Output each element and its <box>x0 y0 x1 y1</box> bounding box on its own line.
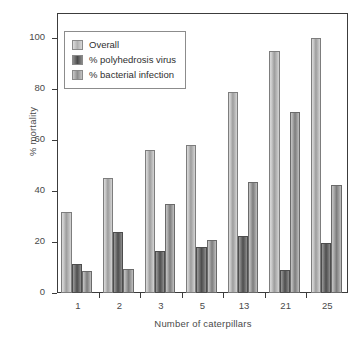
bar <box>238 236 248 293</box>
bar <box>165 204 175 293</box>
bar <box>269 51 279 293</box>
bar <box>280 270 290 293</box>
bar <box>186 145 196 293</box>
legend-swatch-icon-polyhedrosis-virus <box>72 55 83 65</box>
bar <box>196 247 206 293</box>
bar <box>228 92 238 293</box>
legend-swatch-icon-overall <box>72 40 83 50</box>
bar <box>123 269 133 293</box>
bar <box>113 232 123 293</box>
legend-item-bacterial-infection: % bacterial infection <box>72 67 176 82</box>
legend-item-polyhedrosis-virus: % polyhedrosis virus <box>72 52 176 67</box>
x-axis-label: Number of caterpillars <box>57 318 349 329</box>
bar <box>61 212 71 293</box>
bar <box>248 182 258 293</box>
mortality-bar-chart: % mortality 020406080100 1235132125 Over… <box>0 0 360 339</box>
bar <box>145 150 155 293</box>
bar <box>155 251 165 293</box>
bar <box>82 271 92 293</box>
legend-swatch-icon-bacterial-infection <box>72 70 83 80</box>
bar <box>321 243 331 293</box>
legend-label-overall: Overall <box>89 39 119 50</box>
legend-label-polyhedrosis-virus: % polyhedrosis virus <box>89 54 176 65</box>
chart-legend: Overall % polyhedrosis virus % bacterial… <box>64 31 186 89</box>
legend-label-bacterial-infection: % bacterial infection <box>89 69 174 80</box>
bar <box>103 178 113 293</box>
bar <box>72 264 82 293</box>
bar <box>331 185 341 293</box>
legend-item-overall: Overall <box>72 37 176 52</box>
bar <box>290 112 300 293</box>
bar <box>311 38 321 293</box>
bar <box>207 240 217 293</box>
